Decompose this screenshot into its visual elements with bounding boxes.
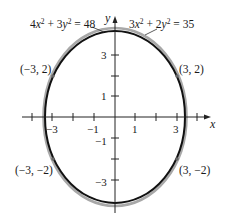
y-tick-label-3: 3 — [101, 49, 107, 61]
y-axis-arrow-icon — [113, 16, 118, 23]
equation-label-black: 3x2 + 2y2 = 35 — [129, 17, 194, 31]
point-label-neg3-neg2: (−3, −2) — [15, 164, 53, 177]
point-label-3-2: (3, 2) — [179, 63, 204, 76]
y-tick-label-1: 1 — [101, 90, 107, 102]
y-tick-label-neg3: −3 — [95, 176, 107, 188]
point-neg3-2 — [51, 74, 55, 78]
point-label-neg3-2: (−3, 2) — [20, 63, 52, 76]
x-tick-label-neg3: −3 — [46, 123, 58, 135]
y-tick-label-neg1: −1 — [95, 135, 107, 147]
equation-label-gray: 4x2 + 3y2 = 48 — [30, 17, 95, 31]
x-tick-label-neg1: −1 — [87, 123, 99, 135]
point-label-3-neg2: (3, −2) — [179, 164, 211, 177]
point-neg3-neg2 — [51, 157, 55, 161]
point-3-neg2 — [175, 157, 179, 161]
x-tick-label-3: 3 — [173, 123, 179, 135]
ellipse-intersection-diagram: x y −3 −1 1 3 3 1 −1 −3 (−3, 2) (3, 2) (… — [0, 0, 227, 224]
y-axis-label: y — [104, 11, 111, 25]
x-axis-label: x — [209, 117, 216, 131]
x-tick-label-1: 1 — [132, 123, 138, 135]
